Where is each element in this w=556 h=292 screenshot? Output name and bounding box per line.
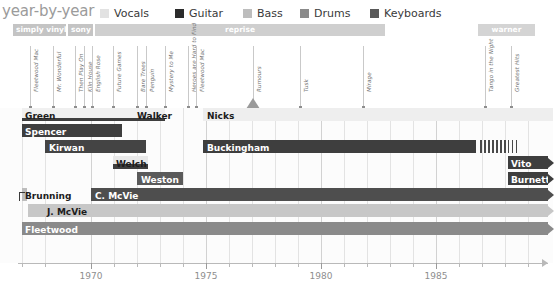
gridline (206, 108, 207, 263)
gridline (275, 108, 276, 263)
dash-mark-icon (496, 140, 498, 153)
legend-item-drums[interactable]: Drums (300, 3, 350, 19)
legend-item-vocals[interactable]: Vocals (100, 3, 149, 19)
album-stem (92, 46, 93, 108)
member-name-label: C. McVie (95, 192, 138, 201)
album-stem (188, 46, 189, 108)
album-stem (84, 46, 85, 108)
dash-mark-icon (480, 140, 482, 153)
ongoing-arrow-icon (548, 206, 554, 216)
legend-item-keyboards[interactable]: Keyboards (370, 3, 441, 19)
record-label-reprise[interactable]: reprise (95, 24, 385, 36)
gridline (229, 108, 230, 263)
dash-mark-icon (508, 140, 510, 153)
axis-tick (505, 263, 506, 267)
axis-tick (367, 263, 368, 267)
gridline (367, 108, 368, 263)
axis-tick (91, 263, 92, 269)
dash-mark-icon (512, 140, 514, 153)
member-bar-j-mcvie[interactable] (28, 204, 548, 217)
album-stem (30, 46, 31, 108)
gridline (505, 108, 506, 263)
gridline (298, 108, 299, 263)
album-title-label: Fleetwood Mac (33, 49, 39, 92)
record-label-simply-vinyl[interactable]: simply vinyl (13, 24, 66, 36)
member-name-label: Weston (141, 176, 179, 185)
gridline (252, 108, 253, 263)
axis-tick (436, 263, 437, 269)
album-title-label: Tango in the Night (488, 39, 494, 92)
member-name-label: Vito (511, 160, 531, 169)
dash-mark-icon (516, 140, 518, 153)
gridline (137, 108, 138, 263)
axis-tick (45, 263, 46, 267)
legend-item-label: Bass (257, 7, 283, 20)
album-stem (165, 46, 166, 108)
album-stem (363, 46, 364, 108)
record-label-sony[interactable]: sony (68, 24, 93, 36)
album-stem (485, 46, 486, 108)
axis-tick (413, 263, 414, 267)
record-label-bars: simply vinylsonyreprisewarner (0, 24, 553, 36)
page-title: year-by-year (2, 2, 94, 20)
member-name-label: Fleetwood (25, 226, 78, 235)
axis-tick-label: 1980 (310, 271, 333, 281)
axis-tick (229, 263, 230, 267)
album-title-label: Mirage (366, 72, 372, 92)
legend-swatch-icon (370, 9, 379, 18)
album-title-label: Mystery to Me (168, 51, 174, 92)
album-title-label: Rumours (256, 66, 262, 92)
ongoing-arrow-icon (548, 174, 554, 184)
x-axis: 1970197519801985 (0, 263, 553, 292)
axis-tick (252, 263, 253, 267)
axis-tick (344, 263, 345, 267)
album-title-label: Future Games (116, 51, 122, 92)
axis-tick (321, 263, 322, 269)
member-name-label: Buckingham (207, 144, 269, 153)
member-bar-c-mcvie[interactable] (91, 188, 548, 201)
album-stem (75, 46, 76, 108)
member-bar-nicks[interactable] (203, 108, 553, 121)
member-name-label: Kirwan (49, 144, 84, 153)
album-title-label: Mr. Wonderful (56, 52, 62, 92)
legend-item-label: Guitar (189, 7, 223, 20)
axis-tick (160, 263, 161, 267)
legend-swatch-icon (243, 9, 252, 18)
axis-tick (390, 263, 391, 267)
member-name-label: Nicks (207, 112, 234, 121)
axis-tick (206, 263, 207, 269)
legend-item-label: Vocals (114, 7, 149, 20)
member-name-label: Green (25, 112, 55, 121)
album-stem (113, 46, 114, 108)
gridline (413, 108, 414, 263)
axis-tick (22, 263, 23, 267)
dash-mark-icon (492, 140, 494, 153)
member-name-label: Spencer (25, 128, 66, 137)
ongoing-arrow-icon (548, 158, 554, 168)
legend-swatch-icon (175, 9, 184, 18)
axis-tick (275, 263, 276, 267)
brunning-bracket-icon (19, 192, 25, 201)
member-name-label: Welch (116, 160, 147, 169)
member-name-label: Brunning (25, 192, 71, 201)
axis-tick (298, 263, 299, 267)
legend-item-label: Keyboards (384, 7, 441, 20)
album-stem (511, 46, 512, 108)
record-label-warner[interactable]: warner (478, 24, 535, 36)
axis-line (18, 263, 548, 264)
ongoing-arrow-icon (548, 190, 554, 200)
legend-item-bass[interactable]: Bass (243, 3, 283, 19)
album-stem (196, 46, 197, 108)
album-markers: Fleetwood MacMr. WonderfulThen Play OnKi… (0, 38, 553, 108)
timeline-plot: GreenWalkerNicksSpencerKirwanBuckinghamW… (0, 108, 553, 263)
gridline (183, 108, 184, 263)
album-stem (137, 46, 138, 108)
album-title-label: Fleetwood Mac (199, 49, 205, 92)
album-stem (300, 46, 301, 108)
ongoing-arrow-icon (548, 224, 554, 234)
album-title-label: Greatest Hits (514, 54, 520, 92)
legend-item-guitar[interactable]: Guitar (175, 3, 223, 19)
album-title-label: Tusk (303, 79, 309, 92)
member-bar-fleetwood[interactable] (22, 222, 548, 235)
axis-tick (528, 263, 529, 267)
